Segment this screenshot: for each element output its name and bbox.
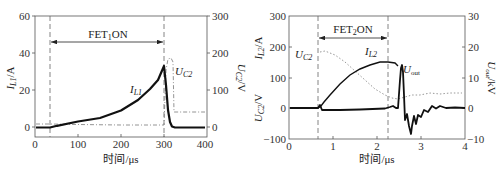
right-y-tick-0: 0 bbox=[281, 102, 287, 114]
right-plot-frame bbox=[289, 16, 465, 139]
left-il1-label: IL1 bbox=[129, 83, 142, 97]
left-fet-annotation: FET1ON bbox=[88, 28, 128, 42]
right-chart-right-tick-neg10: −10 bbox=[467, 133, 485, 145]
left-chart-right-tick-200: 200 bbox=[212, 47, 229, 59]
right-y-ticks bbox=[289, 47, 465, 139]
left-x-axis-label: 时间/μs bbox=[103, 153, 138, 165]
right-x-axis-label: 时间/μs bbox=[359, 153, 394, 165]
svg-text:UC2/V: UC2/V bbox=[252, 94, 266, 122]
left-chart-right-tick-300: 300 bbox=[212, 10, 229, 22]
right-uc2-label: UC2 bbox=[295, 48, 312, 62]
right-il2-label: IL2 bbox=[364, 45, 377, 59]
left-x-tick-200: 200 bbox=[113, 138, 130, 150]
right-chart-right-tick-20: 20 bbox=[468, 41, 480, 53]
svg-text:UC2/V: UC2/V bbox=[234, 64, 248, 92]
figure: 0 20 40 60 0 100 200 300 0 100 200 300 4… bbox=[0, 0, 497, 172]
right-y-tick-300: 300 bbox=[270, 10, 287, 22]
left-chart-right-tick-0: 0 bbox=[212, 121, 218, 133]
left-y-tick-0: 0 bbox=[25, 121, 31, 133]
right-uc2-curve bbox=[320, 51, 462, 99]
svg-text:Uout/kV: Uout/kV bbox=[484, 61, 497, 94]
right-uout-curve bbox=[290, 65, 465, 134]
right-y-tick-neg100: −100 bbox=[263, 133, 286, 145]
right-chart: −100 0 100 200 300 −10 0 10 20 30 0 1 2 … bbox=[252, 10, 497, 165]
left-chart: 0 20 40 60 0 100 200 300 0 100 200 300 4… bbox=[4, 10, 248, 165]
left-y-tick-40: 40 bbox=[19, 47, 31, 59]
svg-text:IL2/A: IL2/A bbox=[252, 36, 266, 60]
right-il2-curve bbox=[290, 62, 398, 108]
left-x-tick-0: 0 bbox=[32, 138, 38, 150]
left-x-tick-400: 400 bbox=[197, 138, 214, 150]
right-y-tick-200: 200 bbox=[270, 41, 287, 53]
right-uout-label: Uout bbox=[403, 63, 420, 77]
right-y-tick-100: 100 bbox=[270, 72, 287, 84]
left-chart-right-tick-100: 100 bbox=[212, 84, 229, 96]
right-chart-right-tick-10: 10 bbox=[468, 72, 480, 84]
left-chart-right-y-axis-label: UC2/V bbox=[234, 64, 248, 92]
right-y-axis-label-il2: IL2/A bbox=[252, 36, 266, 60]
right-x-tick-4: 4 bbox=[462, 140, 468, 152]
left-y-tick-60: 60 bbox=[19, 10, 31, 22]
right-y-axis-label-uc2: UC2/V bbox=[252, 94, 266, 122]
right-x-tick-2: 2 bbox=[374, 140, 380, 152]
left-x-tick-100: 100 bbox=[70, 138, 87, 150]
left-y-tick-20: 20 bbox=[19, 84, 31, 96]
right-chart-right-tick-30: 30 bbox=[468, 10, 480, 22]
left-x-ticks bbox=[78, 134, 164, 137]
right-x-tick-3: 3 bbox=[418, 140, 424, 152]
right-x-tick-1: 1 bbox=[330, 140, 336, 152]
left-chart-right-y-ticks bbox=[207, 16, 210, 127]
left-y-ticks bbox=[32, 16, 35, 127]
left-uc2-label: UC2 bbox=[175, 65, 192, 79]
left-y-axis-label: IL1/A bbox=[4, 66, 18, 90]
right-fet-annotation: FET2ON bbox=[333, 23, 373, 37]
left-x-tick-300: 300 bbox=[156, 138, 173, 150]
svg-text:IL1/A: IL1/A bbox=[4, 66, 18, 90]
right-x-tick-0: 0 bbox=[286, 140, 292, 152]
right-chart-right-tick-0: 0 bbox=[468, 102, 474, 114]
right-chart-right-y-axis-label: Uout/kV bbox=[484, 61, 497, 94]
